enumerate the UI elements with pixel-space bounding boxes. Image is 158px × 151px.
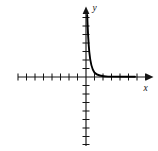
y-axis-label: y [92,3,98,13]
plot-background [0,0,158,151]
figure-container: y x [0,0,158,151]
coordinate-plot: y x [0,0,158,151]
x-axis-label: x [143,83,149,93]
